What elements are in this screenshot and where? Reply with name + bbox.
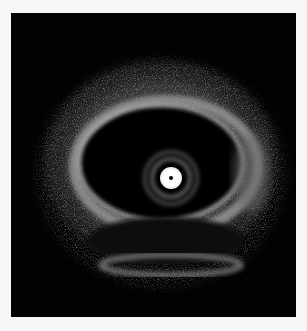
catheter: [145, 152, 197, 204]
ivus-cross-section: [11, 13, 296, 317]
ultrasound-image: [11, 13, 296, 317]
